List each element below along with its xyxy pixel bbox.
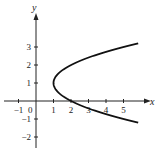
- y-tick-label: 3: [27, 42, 32, 52]
- origin-label: 0: [28, 105, 33, 115]
- x-tick-label: 2: [69, 105, 74, 115]
- y-tick-label: −1: [21, 114, 31, 124]
- tick-labels: −112345−2−1123: [14, 42, 127, 142]
- y-axis-arrow-icon: [34, 13, 39, 20]
- x-axis-label: x: [149, 96, 155, 107]
- x-tick-label: 1: [51, 105, 56, 115]
- x-tick-label: 5: [121, 105, 126, 115]
- y-tick-label: 2: [27, 60, 32, 70]
- y-axis-label: y: [31, 2, 37, 13]
- chart-plot: −112345−2−1123 x y 0: [0, 0, 156, 151]
- y-tick-label: −2: [21, 132, 31, 142]
- ticks: [19, 47, 124, 137]
- y-tick-label: 1: [27, 78, 32, 88]
